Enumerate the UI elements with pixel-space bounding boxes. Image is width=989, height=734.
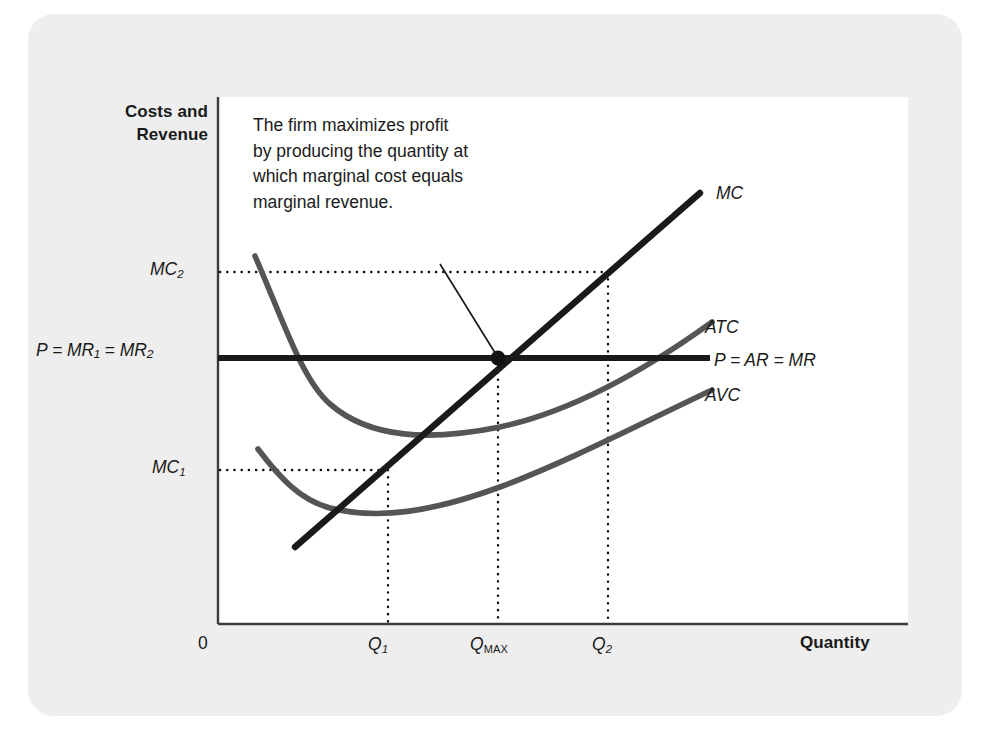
curve-label-atc: ATC — [705, 317, 739, 338]
x-axis-title: Quantity — [800, 631, 910, 654]
y-tick-label-price: P = MR₁ = MR₂ — [36, 340, 154, 361]
origin-label: 0 — [198, 633, 208, 654]
y-tick-label-mc1: MC1 — [152, 457, 186, 478]
curve-label-mc: MC — [716, 183, 743, 204]
curve-label-revenue: P = AR = MR — [714, 350, 816, 371]
x-tick-q2-sub: 2 — [606, 643, 612, 655]
y-tick-mc1-main: MC — [152, 457, 179, 477]
annotation-leader-line — [440, 264, 497, 356]
x-tick-qmax-sub: MAX — [484, 643, 508, 655]
avc-curve — [258, 390, 712, 513]
atc-curve — [255, 256, 712, 435]
figure-stage: Costs and Revenue Quantity The firm maxi… — [0, 0, 989, 734]
curve-label-avc: AVC — [705, 385, 740, 406]
x-tick-q1-sub: 1 — [382, 643, 388, 655]
x-tick-q1-main: Q — [368, 634, 382, 654]
x-tick-label-q2: Q2 — [592, 634, 612, 655]
annotation-text: The firm maximizes profit by producing t… — [253, 113, 468, 215]
x-tick-qmax-main: Q — [470, 634, 484, 654]
x-tick-label-qmax: QMAX — [470, 634, 508, 655]
y-tick-label-mc2: MC2 — [150, 259, 184, 280]
y-tick-mc2-main: MC — [150, 259, 177, 279]
y-axis-title: Costs and Revenue — [108, 100, 208, 146]
y-tick-mc2-sub: 2 — [177, 268, 183, 280]
x-tick-label-q1: Q1 — [368, 634, 388, 655]
x-tick-q2-main: Q — [592, 634, 606, 654]
y-tick-mc1-sub: 1 — [179, 466, 185, 478]
profit-max-point — [491, 351, 506, 366]
